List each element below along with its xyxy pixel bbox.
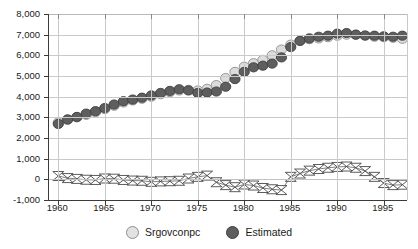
gridline-horizontal — [49, 159, 407, 160]
gridline-vertical — [105, 14, 106, 200]
gridline-vertical — [244, 14, 245, 200]
x-axis-tick-labels: 19601965197019751980198519901995 — [48, 203, 406, 217]
x-axis-tick-label: 1970 — [140, 203, 161, 213]
data-point-residual — [295, 169, 306, 178]
y-axis-tick — [44, 55, 49, 56]
y-axis-tick — [44, 179, 49, 180]
x-axis-tick-label: 1990 — [326, 203, 347, 213]
x-axis-tick-label: 1980 — [233, 203, 254, 213]
legend-item-srgovconpc: Srgovconpc — [126, 226, 200, 239]
data-point-estimated — [174, 85, 184, 94]
gridline-vertical — [291, 14, 292, 200]
y-axis-tick — [44, 76, 49, 77]
y-axis-tick-labels: 8,0007,0006,0005,0004,0003,0002,0001,000… — [0, 14, 44, 200]
y-axis-tick — [44, 200, 49, 201]
y-axis-tick-label: 2,000 — [16, 133, 40, 143]
data-point-estimated — [369, 31, 379, 40]
y-axis-tick-label: 6,000 — [16, 51, 40, 61]
legend-label-estimated: Estimated — [245, 227, 292, 238]
x-axis-tick-top — [244, 14, 245, 19]
gridline-horizontal — [49, 14, 407, 15]
x-axis-tick-top — [58, 14, 59, 19]
y-axis-tick-label: 3,000 — [16, 113, 40, 123]
legend-label-srgovconpc: Srgovconpc — [145, 227, 200, 238]
data-point-estimated — [137, 93, 147, 102]
data-point-estimated — [397, 31, 407, 40]
gridline-horizontal — [49, 97, 407, 98]
x-axis-tick-top — [291, 14, 292, 19]
data-point-srgovconpc — [221, 73, 231, 82]
y-axis-tick — [44, 14, 49, 15]
data-markers-layer — [49, 14, 407, 200]
plot-area — [48, 14, 407, 201]
x-axis-tick-label: 1960 — [47, 203, 68, 213]
y-axis-tick-label: 1,000 — [16, 154, 40, 164]
y-axis-tick-label: 0 — [35, 175, 40, 185]
x-axis-tick-top — [151, 14, 152, 19]
data-point-estimated — [109, 100, 119, 109]
gridline-vertical — [198, 14, 199, 200]
data-point-residual — [229, 183, 240, 192]
gridline-horizontal — [49, 138, 407, 139]
gridline-horizontal — [49, 35, 407, 36]
gridline-horizontal — [49, 117, 407, 118]
y-axis-tick — [44, 117, 49, 118]
y-axis-tick — [44, 138, 49, 139]
gridline-horizontal — [49, 179, 407, 180]
data-point-residual — [248, 181, 259, 190]
legend-item-estimated: Estimated — [226, 226, 292, 239]
data-point-estimated — [221, 82, 231, 91]
y-axis-tick-label: 7,000 — [16, 30, 40, 40]
x-axis-tick-top — [337, 14, 338, 19]
data-point-estimated — [341, 28, 351, 37]
x-axis-tick-label: 1995 — [372, 203, 393, 213]
gridline-horizontal — [49, 76, 407, 77]
y-axis-tick-label: 4,000 — [16, 92, 40, 102]
gridline-vertical — [151, 14, 152, 200]
legend-marker-circle-light-icon — [126, 226, 139, 239]
y-axis-tick — [44, 97, 49, 98]
data-point-estimated — [248, 63, 258, 72]
y-axis-tick — [44, 35, 49, 36]
gridline-vertical — [58, 14, 59, 200]
plot-right-border — [407, 14, 408, 200]
x-axis-tick-label: 1965 — [93, 203, 114, 213]
x-axis-tick-top — [105, 14, 106, 19]
x-axis-tick-label: 1975 — [186, 203, 207, 213]
data-point-estimated — [165, 86, 175, 95]
data-point-estimated — [90, 107, 100, 116]
data-point-estimated — [276, 53, 286, 62]
data-point-estimated — [118, 97, 128, 106]
x-axis-tick-top — [198, 14, 199, 19]
data-point-estimated — [314, 32, 324, 41]
x-axis-tick-label: 1985 — [279, 203, 300, 213]
y-axis-tick-label: 5,000 — [16, 71, 40, 81]
y-axis-tick-label: -1,000 — [13, 195, 40, 205]
x-axis-tick-top — [384, 14, 385, 19]
data-point-estimated — [62, 115, 72, 124]
y-axis-tick — [44, 159, 49, 160]
gridline-vertical — [384, 14, 385, 200]
gridline-vertical — [337, 14, 338, 200]
data-point-residual — [220, 181, 231, 190]
data-point-estimated — [388, 32, 398, 41]
data-point-estimated — [323, 31, 333, 40]
chart-legend: Srgovconpc Estimated — [0, 222, 418, 242]
y-axis-tick-label: 8,000 — [16, 9, 40, 19]
gridline-horizontal — [49, 55, 407, 56]
data-point-estimated — [295, 36, 305, 45]
data-point-estimated — [267, 59, 277, 68]
data-point-estimated — [183, 86, 193, 95]
data-point-estimated — [211, 87, 221, 96]
data-point-residual — [360, 167, 371, 176]
chart-container: 8,0007,0006,0005,0004,0003,0002,0001,000… — [0, 0, 418, 249]
legend-marker-circle-dark-icon — [226, 226, 239, 239]
data-point-residual — [350, 163, 361, 172]
data-point-estimated — [258, 61, 268, 70]
